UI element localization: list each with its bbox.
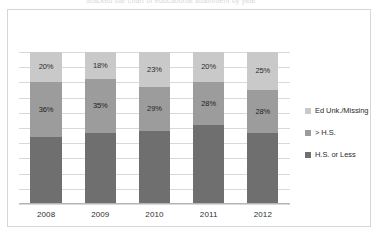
- chart-legend: Ed Unk./Missing> H.S.H.S. or Less: [305, 106, 380, 172]
- bar-segment-label: 23%: [147, 66, 162, 74]
- bar-group[interactable]: 18%35%: [75, 52, 125, 204]
- bar-segment-label: 36%: [39, 106, 54, 114]
- x-tick-label: 2008: [21, 210, 71, 219]
- bar-segment[interactable]: 25%: [247, 52, 278, 90]
- bar-segment[interactable]: [247, 133, 278, 204]
- bar-group[interactable]: 20%36%: [21, 52, 71, 204]
- square-swatch-icon: [305, 130, 311, 136]
- bar-group[interactable]: 25%28%: [238, 52, 288, 204]
- bar-stack[interactable]: 20%28%: [193, 52, 224, 204]
- gridline: [19, 204, 290, 205]
- legend-item-label: Ed Unk./Missing: [315, 106, 368, 115]
- legend-item-label: > H.S.: [315, 128, 336, 137]
- bar-group[interactable]: 20%28%: [183, 52, 233, 204]
- bar-segment[interactable]: 29%: [139, 87, 170, 131]
- plot-area: 20%36%18%35%23%29%20%28%25%28%: [19, 52, 290, 204]
- bar-segment-label: 28%: [201, 100, 216, 108]
- bar-segment[interactable]: [85, 133, 116, 204]
- x-axis-line: [19, 203, 290, 204]
- bar-stack[interactable]: 18%35%: [85, 52, 116, 204]
- bar-segment[interactable]: 20%: [30, 52, 61, 82]
- legend-item[interactable]: Ed Unk./Missing: [305, 106, 380, 115]
- bar-segment-label: 20%: [201, 63, 216, 71]
- bar-segment[interactable]: 36%: [30, 82, 61, 137]
- bar-segment[interactable]: [193, 125, 224, 204]
- x-tick-label: 2009: [75, 210, 125, 219]
- bar-segment[interactable]: 35%: [85, 79, 116, 132]
- chart-frame: 20%36%18%35%23%29%20%28%25%28% 200820092…: [7, 9, 371, 227]
- bar-segment[interactable]: [139, 131, 170, 204]
- bar-segment-label: 28%: [255, 108, 270, 116]
- bar-segment[interactable]: 28%: [247, 90, 278, 133]
- x-tick-label: 2010: [129, 210, 179, 219]
- square-swatch-icon: [305, 152, 311, 158]
- bar-stack[interactable]: 25%28%: [247, 52, 278, 204]
- legend-item-label: H.S. or Less: [315, 150, 356, 159]
- bar-segment-label: 29%: [147, 105, 162, 113]
- x-tick-label: 2012: [238, 210, 288, 219]
- bar-segment-label: 18%: [93, 62, 108, 70]
- bar-segment[interactable]: 28%: [193, 82, 224, 125]
- bar-segment-label: 25%: [255, 67, 270, 75]
- x-tick-label: 2011: [183, 210, 233, 219]
- bar-group[interactable]: 23%29%: [129, 52, 179, 204]
- bar-segment-label: 35%: [93, 102, 108, 110]
- top-cut-off-text-line: Stacked bar chart of educational attainm…: [0, 0, 380, 5]
- top-cut-off-text: Stacked bar chart of educational attainm…: [0, 0, 380, 9]
- legend-item[interactable]: H.S. or Less: [305, 150, 380, 159]
- x-axis-labels: 20082009201020112012: [19, 206, 290, 222]
- bar-segment[interactable]: 23%: [139, 52, 170, 87]
- square-swatch-icon: [305, 108, 311, 114]
- bar-stack[interactable]: 20%36%: [30, 52, 61, 204]
- bar-segment-label: 20%: [39, 63, 54, 71]
- bar-segment[interactable]: 18%: [85, 52, 116, 79]
- bar-segment[interactable]: 20%: [193, 52, 224, 82]
- bar-segment[interactable]: [30, 137, 61, 204]
- legend-item[interactable]: > H.S.: [305, 128, 380, 137]
- bar-stack[interactable]: 23%29%: [139, 52, 170, 204]
- bars-layer: 20%36%18%35%23%29%20%28%25%28%: [19, 52, 290, 204]
